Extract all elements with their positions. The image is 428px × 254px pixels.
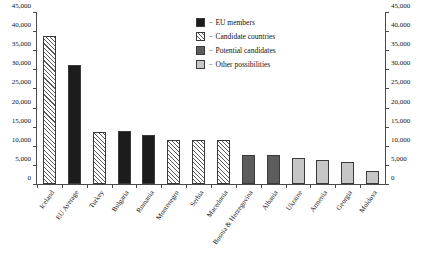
legend-label: Other possibilities	[216, 60, 271, 69]
bar[interactable]	[118, 131, 131, 184]
bar-slot	[161, 12, 186, 184]
bar-slot	[112, 12, 137, 184]
x-tick-label: Armenia	[309, 189, 330, 214]
y-tick-left	[33, 165, 36, 166]
legend-label: Potential candidates	[216, 46, 276, 55]
y-tick-label-left: 5,000	[15, 155, 31, 162]
y-tick-left	[33, 69, 36, 70]
bar[interactable]	[341, 162, 354, 184]
bar[interactable]	[242, 155, 255, 184]
bar-slot	[335, 12, 360, 184]
bar[interactable]	[292, 158, 305, 184]
x-label-slot: Moldova	[360, 188, 385, 254]
bar-slot	[62, 12, 87, 184]
x-label-slot: Serbia	[186, 188, 211, 254]
legend-item-eu[interactable]: –EU members	[196, 18, 336, 27]
x-label-slot: EU Average	[62, 188, 87, 254]
y-tick-right	[386, 88, 389, 89]
x-label-slot: Romania	[136, 188, 161, 254]
y-tick-right	[386, 146, 389, 147]
bar[interactable]	[192, 140, 205, 184]
x-tick-label: Moldova	[358, 189, 379, 214]
y-tick-label-right: 15,000	[391, 117, 410, 124]
legend-separator: –	[209, 60, 213, 69]
legend-label: EU members	[216, 18, 255, 27]
legend-separator: –	[209, 32, 213, 41]
y-tick-label-right: 30,000	[391, 60, 410, 67]
x-label-slot: Turkey	[87, 188, 112, 254]
y-tick-right	[386, 108, 389, 109]
y-tick-label-left: 25,000	[12, 79, 31, 86]
y-tick-label-right: 0	[391, 175, 395, 182]
legend-swatch-other	[196, 60, 205, 69]
bar[interactable]	[167, 140, 180, 184]
legend-separator: –	[209, 46, 213, 55]
x-label-slot: Bosnia & Herzegovina	[236, 188, 261, 254]
legend-item-potential[interactable]: –Potential candidates	[196, 46, 336, 55]
y-tick-label-left: 10,000	[12, 136, 31, 143]
y-tick-right	[386, 69, 389, 70]
x-label-slot: Iceland	[37, 188, 62, 254]
y-tick-label-right: 35,000	[391, 41, 410, 48]
bar[interactable]	[93, 132, 106, 184]
x-axis-labels: IcelandEU AverageTurkeyBulgariaRomaniaMo…	[37, 188, 385, 254]
y-axis-right	[385, 12, 386, 185]
x-tick-label: Albania	[260, 189, 279, 212]
y-tick-label-right: 45,000	[391, 3, 410, 10]
y-tick-left	[33, 146, 36, 147]
chart-legend: –EU members–Candidate countries–Potentia…	[196, 18, 336, 74]
bar-slot	[136, 12, 161, 184]
y-tick-right	[386, 31, 389, 32]
x-tick-label: Bulgaria	[110, 189, 130, 213]
y-tick-left	[33, 12, 36, 13]
x-label-slot: Georgia	[335, 188, 360, 254]
y-tick-right	[386, 12, 389, 13]
legend-item-candidate[interactable]: –Candidate countries	[196, 32, 336, 41]
y-tick-label-left: 40,000	[12, 22, 31, 29]
y-tick-left	[33, 31, 36, 32]
y-tick-left	[33, 50, 36, 51]
x-label-slot: Albania	[261, 188, 286, 254]
y-tick-label-right: 25,000	[391, 79, 410, 86]
x-label-slot: Ukraine	[286, 188, 311, 254]
x-label-slot: Armenia	[310, 188, 335, 254]
y-tick-label-left: 20,000	[12, 98, 31, 105]
y-tick-label-left: 15,000	[12, 117, 31, 124]
legend-swatch-eu	[196, 18, 205, 27]
bar-chart: 05,00010,00015,00020,00025,00030,00035,0…	[0, 0, 428, 254]
y-tick-label-right: 40,000	[391, 22, 410, 29]
y-tick-right	[386, 184, 389, 185]
y-tick-left	[33, 108, 36, 109]
y-tick-left	[33, 184, 36, 185]
x-label-slot: Bulgaria	[112, 188, 137, 254]
x-tick-label: Turkey	[88, 189, 106, 210]
bar[interactable]	[316, 160, 329, 184]
x-tick-label: Iceland	[38, 189, 56, 210]
x-tick-label: Serbia	[188, 189, 205, 208]
y-tick-label-left: 30,000	[12, 60, 31, 67]
bar[interactable]	[43, 36, 56, 184]
legend-swatch-potential	[196, 46, 205, 55]
bar[interactable]	[267, 155, 280, 184]
legend-separator: –	[209, 18, 213, 27]
legend-item-other[interactable]: –Other possibilities	[196, 60, 336, 69]
bar[interactable]	[217, 140, 230, 184]
bar-slot	[87, 12, 112, 184]
y-tick-label-left: 35,000	[12, 41, 31, 48]
bar[interactable]	[142, 135, 155, 184]
y-tick-label-right: 20,000	[391, 98, 410, 105]
x-label-slot: Montenegro	[161, 188, 186, 254]
y-tick-label-left: 0	[28, 175, 32, 182]
x-tick-label: Georgia	[335, 189, 354, 212]
y-tick-right	[386, 127, 389, 128]
y-tick-label-left: 45,000	[12, 3, 31, 10]
bar-slot	[360, 12, 385, 184]
y-tick-left	[33, 127, 36, 128]
legend-label: Candidate countries	[216, 32, 276, 41]
y-tick-right	[386, 165, 389, 166]
legend-swatch-candidate	[196, 32, 205, 41]
bar[interactable]	[68, 65, 81, 184]
x-tick-label: Ukraine	[285, 189, 304, 212]
x-tick-label: Romania	[134, 189, 155, 214]
bar[interactable]	[366, 171, 379, 184]
